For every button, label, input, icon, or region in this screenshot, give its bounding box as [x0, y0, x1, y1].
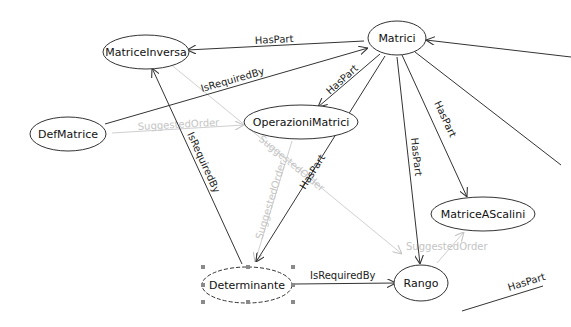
resize-handle-nw[interactable]	[201, 265, 205, 269]
node-def-matrice[interactable]: DefMatrice	[30, 117, 106, 151]
resize-handle-ne[interactable]	[291, 265, 295, 269]
edge-label-haspart: HasPart	[506, 271, 546, 293]
edge-label-isrequiredby: IsRequiredBy	[200, 65, 266, 94]
edge-matrici-rango[interactable]: HasPart	[397, 57, 424, 264]
node-label: Determinante	[209, 279, 285, 292]
edge-matrici-scalini[interactable]: HasPart	[402, 55, 467, 197]
resize-handle-n[interactable]	[246, 265, 250, 269]
edge-label-isrequiredby: IsRequiredBy	[310, 270, 376, 281]
edge-matrici-inversa[interactable]: HasPart	[187, 33, 364, 50]
edge-label-haspart: HasPart	[432, 99, 458, 139]
resize-handle-e[interactable]	[291, 283, 295, 287]
resize-handle-se[interactable]	[291, 300, 295, 304]
edge-label-isrequiredby: IsRequiredBy	[185, 130, 222, 194]
edge-label-suggested-order: SuggestedOrder	[253, 159, 288, 241]
edge-matrici-operazioni[interactable]: HasPart	[318, 54, 380, 107]
ontology-graph-canvas[interactable]: SuggestedOrder SuggestedOrder SuggestedO…	[0, 0, 571, 327]
node-determinante[interactable]: Determinante	[201, 265, 295, 304]
node-label: OperazioniMatrici	[253, 116, 350, 129]
edge-label-haspart: HasPart	[255, 33, 294, 46]
node-label: MatriceAScalini	[441, 208, 525, 221]
edge-offscreen-haspart[interactable]: HasPart	[462, 271, 547, 311]
edge-operazioni-determinante[interactable]: SuggestedOrder	[253, 141, 292, 262]
edge-label-suggested-order: SuggestedOrder	[138, 117, 221, 132]
node-label: Rango	[404, 277, 439, 290]
node-label: MatriceInversa	[105, 46, 186, 59]
node-rango[interactable]: Rango	[394, 265, 448, 301]
node-matrice-inversa[interactable]: MatriceInversa	[103, 35, 189, 69]
node-label: DefMatrice	[38, 128, 98, 141]
node-operazioni-matrici[interactable]: OperazioniMatrici	[244, 105, 358, 139]
edge-determinante-rango[interactable]: IsRequiredBy	[295, 270, 396, 284]
edge-label-haspart: HasPart	[409, 137, 424, 177]
node-matrice-a-scalini[interactable]: MatriceAScalini	[431, 197, 535, 231]
resize-handle-sw[interactable]	[201, 300, 205, 304]
edge-matrici-determinante[interactable]: HasPart	[256, 56, 385, 262]
resize-handle-w[interactable]	[201, 283, 205, 287]
node-label: Matrici	[378, 32, 415, 45]
edge-offscreen-to-matrici[interactable]	[426, 40, 571, 57]
resize-handle-s[interactable]	[246, 300, 250, 304]
node-matrici[interactable]: Matrici	[368, 21, 426, 55]
edge-label-haspart: HasPart	[324, 62, 360, 96]
